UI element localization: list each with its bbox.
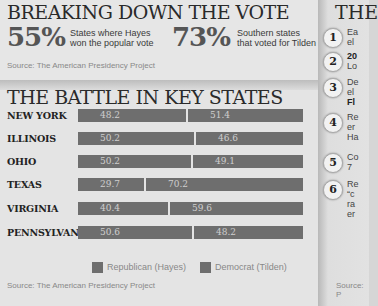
bar-value: 50.2 [100, 132, 120, 145]
step-text: Eael [347, 27, 358, 47]
bar-republican: 50.2 [78, 155, 191, 168]
step-text: 20Lo [347, 51, 357, 71]
bar-value: 51.4 [210, 109, 230, 122]
battle-source: Source: The American Presidency Project [7, 281, 155, 290]
right-panel [318, 0, 369, 306]
bar-democrat: 46.6 [196, 132, 303, 145]
bar-value: 48.2 [100, 109, 120, 122]
top-source: Source: The American Presidency Project [7, 61, 155, 70]
stat2-value: 73% [172, 22, 230, 52]
bar-value: 40.4 [100, 202, 120, 215]
bar-democrat: 49.1 [193, 155, 303, 168]
bar-republican: 48.2 [78, 109, 186, 122]
legend-democrat-label: Democrat (Tilden) [215, 262, 287, 272]
breaking-down-title: BREAKING DOWN THE VOTE [7, 1, 289, 23]
bar-value: 29.7 [100, 178, 120, 191]
bar-value: 70.2 [168, 178, 188, 191]
state-label: VIRGINIA [7, 203, 58, 214]
step-number-badge: 6 [323, 180, 343, 200]
bar-republican: 50.2 [78, 132, 194, 145]
bar-value: 46.6 [218, 132, 238, 145]
bar-value: 59.6 [192, 202, 212, 215]
step-text: ReerHa [347, 112, 359, 142]
step-number-badge: 2 [323, 52, 343, 72]
bar-republican: 50.6 [78, 226, 192, 239]
bar-value: 50.6 [100, 226, 120, 239]
bar-republican: 29.7 [78, 178, 144, 191]
state-label: ILLINOIS [7, 133, 56, 144]
step-text: Co7 [347, 152, 359, 172]
step-text: Re“craer [347, 179, 359, 219]
legend-republican-label: Republican (Hayes) [107, 262, 186, 272]
bar-democrat: 59.6 [170, 202, 303, 215]
bar-democrat: 51.4 [188, 109, 303, 122]
step-text: DeelFl [347, 77, 359, 107]
bar-democrat: 48.2 [194, 226, 303, 239]
step-number-badge: 4 [323, 113, 343, 133]
state-label: NEW YORK [7, 110, 67, 121]
step-number-badge: 3 [323, 78, 343, 98]
state-label: TEXAS [7, 179, 42, 190]
bar-value: 49.1 [215, 155, 235, 168]
step-number-badge: 5 [323, 153, 343, 173]
battle-title: THE BATTLE IN KEY STATES [7, 86, 283, 108]
bar-value: 48.2 [216, 226, 236, 239]
stat1-value: 55% [7, 22, 65, 52]
state-label: OHIO [7, 156, 36, 167]
right-title: THE [335, 1, 378, 23]
bar-democrat: 70.2 [146, 178, 303, 191]
step-number-badge: 1 [323, 28, 343, 48]
right-source: Source: P [336, 281, 369, 299]
stat2-label: Southern statesthat voted for Tilden [237, 28, 316, 48]
legend-republican-swatch [92, 262, 103, 273]
bar-republican: 40.4 [78, 202, 168, 215]
stat1-label: States where Hayeswon the popular vote [70, 28, 154, 48]
legend-democrat-swatch [200, 262, 211, 273]
bar-value: 50.2 [100, 155, 120, 168]
